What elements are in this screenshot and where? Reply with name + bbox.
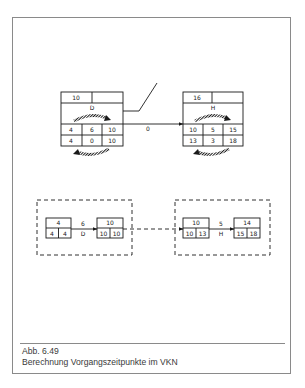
- event-1-earliest: 4: [57, 219, 61, 226]
- node-h-duration: 5: [211, 126, 215, 133]
- event-3-value-a: 10: [186, 230, 194, 237]
- event-1-value-a: 4: [50, 230, 54, 237]
- node-d-saz: 4: [69, 137, 73, 144]
- node-d-label: D: [90, 104, 95, 111]
- vkn-link-label: 0: [146, 125, 150, 132]
- event-2-earliest: 10: [106, 219, 114, 226]
- leader-line: [123, 83, 157, 111]
- network-diagram: 10 D 4 6 10 4 0 10 0 16 H 10 5 15 13 3 1…: [0, 0, 305, 388]
- node-h-sez: 18: [229, 137, 237, 144]
- node-d-top-left: 10: [72, 94, 80, 101]
- backward-pass-arrow-icon: [77, 149, 109, 154]
- node-d-float: 0: [90, 137, 94, 144]
- event-3-earliest: 10: [192, 219, 200, 226]
- forward-pass-arrow-icon: [74, 116, 107, 121]
- node-h-label: H: [211, 104, 216, 111]
- dashed-group-h: [175, 200, 270, 255]
- figure-number: Abb. 6.49: [22, 346, 178, 357]
- activity-h-label: H: [219, 230, 224, 237]
- node-h-saz: 13: [189, 137, 197, 144]
- event-1-value-b: 4: [63, 230, 67, 237]
- node-d-duration: 6: [90, 126, 94, 133]
- dashed-group-d: [37, 200, 132, 255]
- event-4-earliest: 14: [243, 219, 251, 226]
- node-h-fez: 15: [229, 126, 237, 133]
- figure-caption: Abb. 6.49 Berechnung Vorgangszeitpunkte …: [22, 346, 178, 368]
- node-d-fez: 10: [108, 126, 116, 133]
- node-d-faz: 4: [69, 126, 73, 133]
- forward-pass-arrow-icon: [195, 116, 227, 121]
- event-3-value-b: 13: [199, 230, 207, 237]
- node-h-faz: 10: [189, 126, 197, 133]
- event-2-value-a: 10: [100, 230, 108, 237]
- event-4-value-a: 15: [237, 230, 245, 237]
- node-h-float: 3: [211, 137, 215, 144]
- activity-h-duration: 5: [219, 220, 223, 227]
- node-d-sez: 10: [108, 137, 116, 144]
- event-4-value-b: 18: [250, 230, 258, 237]
- activity-d-label: D: [81, 230, 86, 237]
- activity-d-duration: 6: [81, 220, 85, 227]
- node-h-top-left: 16: [193, 94, 201, 101]
- caption-divider: [20, 343, 285, 344]
- backward-pass-arrow-icon: [197, 149, 229, 154]
- figure-title: Berechnung Vorgangszeitpunkte im VKN: [22, 357, 178, 368]
- event-2-value-b: 10: [113, 230, 121, 237]
